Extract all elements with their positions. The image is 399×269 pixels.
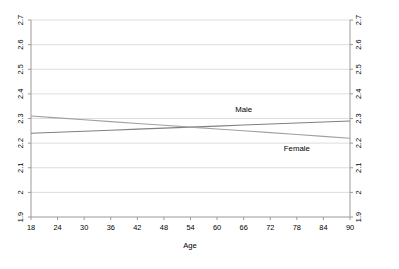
right-y-tick-label: 2.6 <box>354 39 363 49</box>
left-y-tick-label: 2.6 <box>16 39 25 49</box>
x-tick-label: 84 <box>319 223 327 232</box>
x-axis-tick-labels: 18243036424854606672788490 <box>27 223 354 232</box>
right-y-tick-label: 2.5 <box>354 64 363 74</box>
x-tick-label: 42 <box>133 223 141 232</box>
data-series-group <box>31 116 350 138</box>
series-line-female <box>31 116 350 138</box>
x-tick-label: 78 <box>293 223 301 232</box>
left-y-tick-label: 2 <box>16 190 25 194</box>
series-annotations: MaleFemale <box>235 105 310 153</box>
series-annotation-female: Female <box>284 144 310 153</box>
x-axis-title: Age <box>183 241 197 250</box>
chart-container: 1.922.12.22.32.42.52.62.7 1.922.12.22.32… <box>0 0 399 269</box>
left-y-axis-tick-labels: 1.922.12.22.32.42.52.62.7 <box>16 15 25 222</box>
right-y-tick-label: 2.7 <box>354 15 363 25</box>
line-chart: 1.922.12.22.32.42.52.62.7 1.922.12.22.32… <box>0 0 399 269</box>
x-tick-label: 60 <box>213 223 221 232</box>
x-tick-label: 24 <box>53 223 61 232</box>
y-gridlines <box>31 20 350 192</box>
left-y-tick-label: 2.2 <box>16 138 25 148</box>
right-y-tick-label: 2 <box>354 190 363 194</box>
x-tick-label: 48 <box>160 223 168 232</box>
right-y-tick-label: 2.1 <box>354 163 363 173</box>
right-y-tick-label: 1.9 <box>354 212 363 222</box>
right-y-tick-label: 2.2 <box>354 138 363 148</box>
left-y-tick-label: 1.9 <box>16 212 25 222</box>
left-y-tick-label: 2.1 <box>16 163 25 173</box>
right-y-axis-tick-labels: 1.922.12.22.32.42.52.62.7 <box>354 15 363 222</box>
x-tick-label: 36 <box>107 223 115 232</box>
x-tick-label: 18 <box>27 223 35 232</box>
left-y-tick-label: 2.7 <box>16 15 25 25</box>
left-y-tick-label: 2.4 <box>16 89 25 99</box>
x-tick-label: 30 <box>80 223 88 232</box>
right-y-tick-label: 2.4 <box>354 89 363 99</box>
series-annotation-male: Male <box>235 105 252 114</box>
x-tick-label: 72 <box>266 223 274 232</box>
right-y-tick-label: 2.3 <box>354 113 363 123</box>
x-tick-label: 66 <box>240 223 248 232</box>
x-tick-label: 54 <box>186 223 194 232</box>
left-y-tick-label: 2.3 <box>16 113 25 123</box>
x-tick-label: 90 <box>346 223 354 232</box>
left-y-tick-label: 2.5 <box>16 64 25 74</box>
